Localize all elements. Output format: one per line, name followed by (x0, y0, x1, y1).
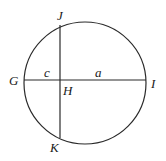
label-h: H (62, 83, 73, 98)
label-g: G (9, 73, 19, 88)
label-c: c (44, 65, 50, 80)
label-j: J (57, 8, 64, 23)
label-k: K (49, 140, 60, 155)
label-i: I (150, 76, 156, 91)
label-a: a (95, 65, 102, 80)
chord-diagram: J G c H a I K (0, 0, 166, 161)
circle (24, 22, 146, 144)
